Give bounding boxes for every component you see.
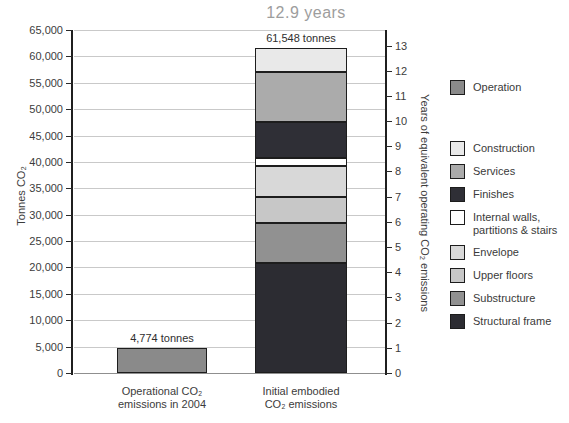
right-axis-tick-label: 6 [395, 216, 401, 228]
left-axis-tick [66, 267, 72, 268]
legend-label-line: Envelope [473, 246, 519, 259]
bar-segment-structural-frame [255, 263, 347, 373]
left-axis-tick [66, 83, 72, 84]
left-axis-tick-label: 30,000 [9, 209, 63, 221]
left-axis-tick-label: 10,000 [9, 314, 63, 326]
x-axis-category-line: Operational CO₂ [118, 385, 206, 398]
legend-swatch [450, 268, 465, 283]
left-axis-tick-label: 45,000 [9, 130, 63, 142]
legend-label: Structural frame [473, 315, 551, 328]
legend-label-line: partitions & stairs [473, 224, 557, 237]
right-axis-tick-label: 3 [395, 291, 401, 303]
right-axis-tick [386, 197, 392, 198]
right-axis-label: Years of equivalent operating CO₂ emissi… [419, 94, 431, 312]
x-axis-category-line: emissions in 2004 [118, 398, 206, 411]
gridline [74, 30, 385, 31]
right-axis-tick-label: 13 [395, 40, 407, 52]
legend-item: Structural frame [450, 314, 557, 329]
left-axis-tick-label: 35,000 [9, 182, 63, 194]
left-axis-tick-label: 25,000 [9, 235, 63, 247]
right-axis-tick [386, 171, 392, 172]
legend-label: Services [473, 165, 515, 178]
right-axis-tick [386, 222, 392, 223]
bar-total-label: 61,548 tonnes [266, 32, 336, 44]
left-axis-tick [66, 109, 72, 110]
legend-label-line: Finishes [473, 188, 514, 201]
bar-segment-upper-floors [255, 197, 347, 223]
left-axis-tick [66, 215, 72, 216]
legend-item: Upper floors [450, 268, 557, 283]
bar-segment-operation [117, 348, 207, 373]
legend-label-line: Upper floors [473, 269, 533, 282]
legend-item: Construction [450, 141, 557, 156]
left-axis-tick [66, 188, 72, 189]
left-axis-tick-label: 40,000 [9, 156, 63, 168]
x-axis-category-label: Operational CO₂emissions in 2004 [118, 385, 206, 411]
right-axis-tick-label: 8 [395, 165, 401, 177]
right-axis-tick-label: 10 [395, 115, 407, 127]
left-axis-tick-label: 15,000 [9, 288, 63, 300]
right-axis-tick [386, 272, 392, 273]
right-axis-tick-label: 4 [395, 266, 401, 278]
legend-swatch [450, 187, 465, 202]
legend-label: Internal walls,partitions & stairs [473, 211, 557, 237]
x-axis-category-line: CO₂ emissions [262, 398, 339, 411]
x-axis-category-line: Initial embodied [262, 385, 339, 398]
left-axis-tick [66, 373, 72, 374]
legend-label: Substructure [473, 292, 535, 305]
x-axis-category-label: Initial embodiedCO₂ emissions [262, 385, 339, 411]
right-axis-tick-label: 5 [395, 241, 401, 253]
right-axis-tick [386, 348, 392, 349]
legend: OperationConstructionServicesFinishesInt… [450, 80, 557, 329]
left-axis-tick-label: 5,000 [9, 341, 63, 353]
left-axis-tick [66, 294, 72, 295]
right-axis-tick-label: 12 [395, 65, 407, 77]
bar-segment-services [255, 72, 347, 122]
left-axis-tick-label: 65,000 [9, 24, 63, 36]
legend-label: Finishes [473, 188, 514, 201]
right-axis-tick-label: 9 [395, 140, 401, 152]
left-axis-tick [66, 30, 72, 31]
legend-label-line: Construction [473, 142, 535, 155]
legend-swatch [450, 245, 465, 260]
legend-label: Operation [473, 81, 521, 94]
right-axis-tick [386, 46, 392, 47]
left-axis-tick [66, 241, 72, 242]
legend-item: Internal walls,partitions & stairs [450, 210, 557, 237]
left-axis-tick-label: 20,000 [9, 261, 63, 273]
left-axis-tick [66, 162, 72, 163]
right-axis-tick [386, 71, 392, 72]
figure: 12.9 years Tonnes CO₂ Years of equivalen… [0, 0, 569, 423]
right-axis-tick [386, 96, 392, 97]
legend-label-line: Services [473, 165, 515, 178]
bar-segment-envelope [255, 166, 347, 197]
bar-segment-internal-walls-partitions-stairs [255, 158, 347, 165]
bar-segment-substructure [255, 223, 347, 263]
right-axis-tick-label: 2 [395, 317, 401, 329]
left-axis-tick-label: 0 [9, 367, 63, 379]
legend-label: Upper floors [473, 269, 533, 282]
right-axis-tick [386, 146, 392, 147]
legend-item: Services [450, 164, 557, 179]
legend-swatch [450, 291, 465, 306]
left-axis-line [71, 30, 73, 375]
legend-label: Construction [473, 142, 535, 155]
right-axis-tick [386, 323, 392, 324]
left-axis-tick [66, 136, 72, 137]
legend-item: Finishes [450, 187, 557, 202]
right-axis-tick-label: 0 [395, 367, 401, 379]
legend-swatch [450, 80, 465, 95]
left-axis-tick-label: 55,000 [9, 77, 63, 89]
right-axis-tick-label: 7 [395, 191, 401, 203]
legend-label-line: Internal walls, [473, 211, 557, 224]
right-axis-tick-label: 11 [395, 90, 406, 102]
bar-segment-construction [255, 48, 347, 71]
bar-total-label: 4,774 tonnes [130, 332, 194, 344]
legend-item: Envelope [450, 245, 557, 260]
left-axis-tick-label: 60,000 [9, 50, 63, 62]
embodied-bar [255, 48, 347, 373]
operational-bar [117, 348, 207, 373]
legend-label: Envelope [473, 246, 519, 259]
gridline [74, 373, 385, 374]
left-axis-tick-label: 50,000 [9, 103, 63, 115]
